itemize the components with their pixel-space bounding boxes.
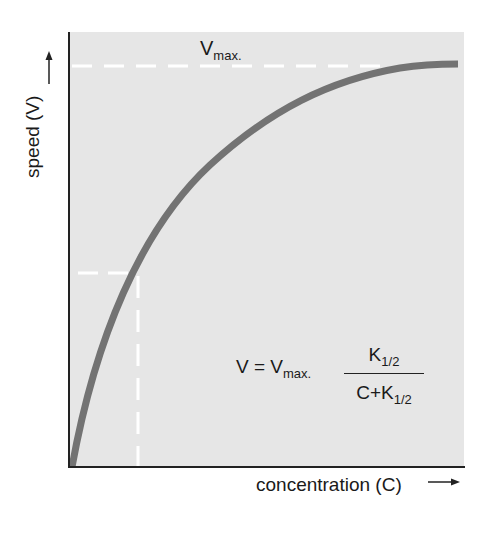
vmax-label-main: V [200, 37, 213, 59]
vmax-label: Vmax. [200, 37, 242, 63]
denominator-sub: 1/2 [394, 392, 412, 407]
formula-lhs: V = V [236, 356, 283, 377]
x-axis-label: concentration (C) [256, 474, 402, 496]
formula: V = Vmax. K1/2 C+K1/2 [236, 356, 311, 381]
y-axis-label: speed (V) [22, 96, 44, 178]
x-arrow-icon [428, 479, 460, 486]
formula-fraction: K1/2 C+K1/2 [344, 344, 424, 407]
numerator-sub: 1/2 [381, 354, 399, 369]
formula-denominator: C+K1/2 [344, 374, 424, 407]
denominator-main: C+K [356, 382, 394, 403]
formula-numerator: K1/2 [344, 344, 424, 374]
formula-lhs-sub: max. [283, 366, 311, 381]
vmax-label-sub: max. [213, 48, 241, 63]
numerator-main: K [369, 344, 382, 365]
y-arrow-icon [46, 51, 53, 84]
chart-figure [0, 0, 491, 537]
